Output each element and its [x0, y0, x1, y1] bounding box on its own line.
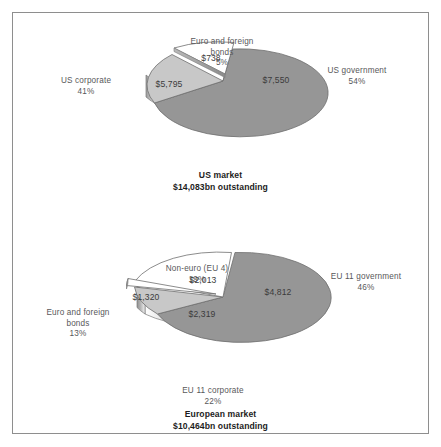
eu-value-government: $4,812 — [251, 287, 305, 297]
european-market-caption-subtitle: $10,464bn outstanding — [13, 421, 428, 433]
eu-callout-euro-foreign: Euro and foreign bonds 13% — [29, 298, 127, 350]
us-callout-government-name: US government — [327, 66, 386, 75]
us-value-euro-foreign: $738 — [189, 53, 233, 63]
us-market-pie-chart: Euro and foreign bonds 5% US government … — [13, 13, 428, 223]
us-market-caption-subtitle: $14,083bn outstanding — [13, 182, 428, 194]
figure-frame: Euro and foreign bonds 5% US government … — [12, 12, 429, 434]
eu-callout-euro-foreign-name: Euro and foreign bonds — [46, 308, 109, 327]
eu-callout-corporate-percent: 22% — [154, 397, 272, 407]
us-value-government: $7,550 — [249, 75, 303, 85]
us-callout-corporate: US corporate 41% — [41, 66, 131, 108]
eu-callout-government: EU 11 government 46% — [305, 262, 427, 304]
eu-callout-corporate-name: EU 11 corporate — [182, 386, 243, 395]
us-market-caption: US market $14,083bn outstanding — [13, 170, 428, 193]
eu-callout-government-name: EU 11 government — [331, 272, 401, 281]
eu-callout-government-percent: 46% — [305, 283, 427, 293]
eu-value-euro-foreign: $1,320 — [121, 292, 171, 302]
european-market-caption-title: European market — [13, 409, 428, 421]
eu-value-corporate: $2,319 — [175, 309, 229, 319]
us-callout-government: US government 54% — [301, 56, 413, 98]
eu-callout-non-euro-name: Non-euro (EU 4) — [166, 264, 229, 273]
european-market-pie-chart: Non-euro (EU 4) 19% EU 11 government 46%… — [13, 221, 428, 431]
us-value-corporate: $5,795 — [142, 79, 196, 89]
us-market-caption-title: US market — [13, 170, 428, 182]
eu-callout-euro-foreign-percent: 13% — [29, 329, 127, 339]
us-callout-corporate-percent: 41% — [41, 87, 131, 97]
us-callout-government-percent: 54% — [301, 77, 413, 87]
eu-value-non-euro: $2,013 — [177, 275, 229, 285]
eu-pie-stage: Non-euro (EU 4) 19% EU 11 government 46%… — [13, 221, 428, 431]
european-market-caption: European market $10,464bn outstanding — [13, 409, 428, 432]
us-callout-corporate-name: US corporate — [61, 76, 111, 85]
